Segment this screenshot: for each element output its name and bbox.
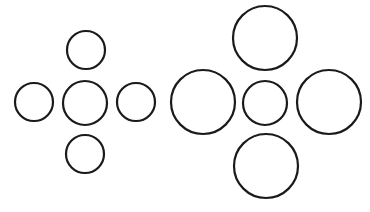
right-cluster (171, 6, 361, 198)
right-left-circle (171, 70, 235, 134)
right-bottom-circle (234, 134, 298, 198)
left-bottom-circle (66, 135, 104, 173)
right-top-circle (233, 6, 297, 70)
left-cluster (15, 31, 155, 173)
left-left-circle (15, 83, 53, 121)
left-top-circle (67, 31, 105, 69)
left-right-circle (117, 83, 155, 121)
left-center-circle (63, 81, 107, 125)
right-center-circle (243, 81, 287, 125)
ebbinghaus-diagram (0, 0, 370, 212)
diagram-canvas (0, 0, 370, 212)
right-right-circle (297, 70, 361, 134)
